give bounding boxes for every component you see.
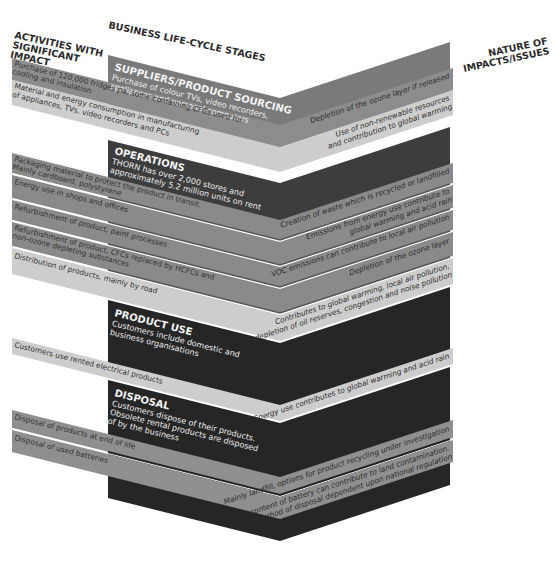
lifecycle-diagram: ACTIVITIES WITH SIGNIFICANT IMPACT BUSIN… xyxy=(0,0,558,564)
svg-text:BUSINESS LIFE-CYCLE STAGES: BUSINESS LIFE-CYCLE STAGES xyxy=(108,19,267,63)
stages-header: BUSINESS LIFE-CYCLE STAGES xyxy=(108,19,267,63)
impacts-header: NATURE OF IMPACTS/ISSUES xyxy=(460,35,551,74)
